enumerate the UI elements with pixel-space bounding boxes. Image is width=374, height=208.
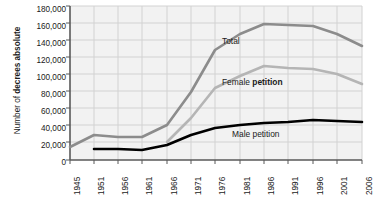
x-tick-1981: 1981 [244,177,252,195]
x-tick-1996: 1996 [317,177,325,195]
x-tick-1956: 1956 [122,177,130,195]
x-tick-1966: 1966 [171,177,179,195]
footer-source-note [228,200,371,207]
x-tick-1951: 1951 [98,177,106,195]
x-tick-2001: 2001 [341,177,349,195]
x-tick-1945: 1945 [74,177,82,195]
x-tick-1961: 1961 [146,177,154,195]
x-tick-1986: 1986 [268,177,276,195]
x-tick-1971: 1971 [195,177,203,195]
x-tick-1991: 1991 [292,177,300,195]
x-tick-2006: 2006 [366,177,374,195]
x-tick-1976: 1976 [219,177,227,195]
